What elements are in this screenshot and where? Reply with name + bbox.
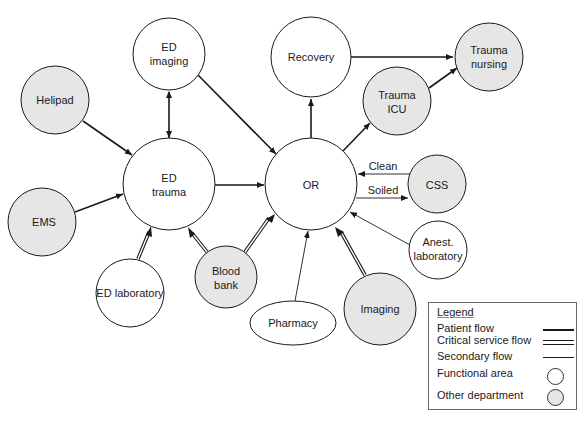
- svg-text:Imaging: Imaging: [360, 303, 399, 315]
- edge-blood-bank-or: [245, 214, 275, 252]
- legend-patient-flow-icon: [543, 329, 574, 331]
- svg-text:OR: OR: [303, 179, 320, 191]
- svg-text:trauma: trauma: [152, 186, 187, 198]
- edge-blood-bank-ed-trauma: [188, 227, 207, 252]
- svg-text:EMS: EMS: [32, 216, 56, 228]
- legend-functional-area-icon: [547, 368, 564, 385]
- legend-label-secondary-flow: Secondary flow: [437, 350, 512, 362]
- edge-label-clean: Clean: [369, 160, 398, 172]
- legend: Legend Patient flow Critical service flo…: [428, 302, 577, 410]
- legend-critical-flow-icon: [543, 340, 574, 345]
- svg-text:ED: ED: [161, 172, 176, 184]
- svg-text:ICU: ICU: [388, 103, 407, 115]
- edge-or-trauma-icu: [343, 123, 370, 151]
- node-helipad: Helipad: [21, 66, 89, 134]
- svg-text:Helipad: Helipad: [36, 94, 73, 106]
- legend-label-patient-flow: Patient flow: [437, 322, 494, 334]
- svg-text:laboratory: laboratory: [414, 250, 463, 262]
- svg-text:Trauma: Trauma: [378, 89, 416, 101]
- legend-label-other-department: Other department: [437, 389, 523, 401]
- svg-text:ED laboratory: ED laboratory: [96, 287, 164, 299]
- legend-label-functional-area: Functional area: [437, 367, 513, 379]
- svg-text:Trauma: Trauma: [470, 44, 508, 56]
- svg-text:Recovery: Recovery: [288, 51, 335, 63]
- svg-text:Blood: Blood: [212, 265, 240, 277]
- edge-label-soiled: Soiled: [368, 184, 399, 196]
- svg-text:Anest.: Anest.: [422, 236, 453, 248]
- edge-helipad-ed-trauma: [83, 121, 132, 155]
- edge-ed-lab-ed-trauma: [138, 226, 152, 259]
- node-pharmacy: Pharmacy: [250, 301, 336, 345]
- node-css: CSS: [408, 155, 466, 213]
- svg-text:imaging: imaging: [150, 55, 189, 67]
- svg-text:ED: ED: [161, 41, 176, 53]
- node-ed-trauma: ED trauma: [123, 138, 215, 230]
- node-ed-laboratory: ED laboratory: [96, 259, 164, 327]
- node-or: OR: [265, 138, 357, 230]
- node-ems: EMS: [8, 188, 76, 256]
- svg-text:bank: bank: [214, 279, 238, 291]
- svg-text:CSS: CSS: [426, 179, 449, 191]
- edge-pharmacy-or: [295, 231, 308, 301]
- edge-imaging-or: [335, 227, 365, 275]
- svg-text:Pharmacy: Pharmacy: [268, 317, 318, 329]
- edge-anest-lab-or: [350, 212, 410, 245]
- svg-text:nursing: nursing: [471, 58, 507, 70]
- legend-title: Legend: [437, 306, 474, 318]
- node-trauma-nursing: Trauma nursing: [455, 23, 523, 91]
- legend-secondary-flow-icon: [543, 357, 574, 358]
- node-ed-imaging: ED imaging: [133, 18, 205, 90]
- node-recovery: Recovery: [271, 17, 351, 97]
- legend-label-critical-flow: Critical service flow: [437, 334, 531, 346]
- edge-ed-imaging-or: [198, 75, 276, 154]
- node-trauma-icu: Trauma ICU: [363, 67, 431, 135]
- legend-other-department-icon: [547, 389, 564, 406]
- edge-ems-ed-trauma: [75, 194, 123, 212]
- node-anest-laboratory: Anest. laboratory: [409, 221, 467, 279]
- edge-trauma-icu-trauma-nursing: [429, 68, 457, 88]
- node-imaging: Imaging: [344, 273, 416, 345]
- node-blood-bank: Blood bank: [195, 246, 257, 308]
